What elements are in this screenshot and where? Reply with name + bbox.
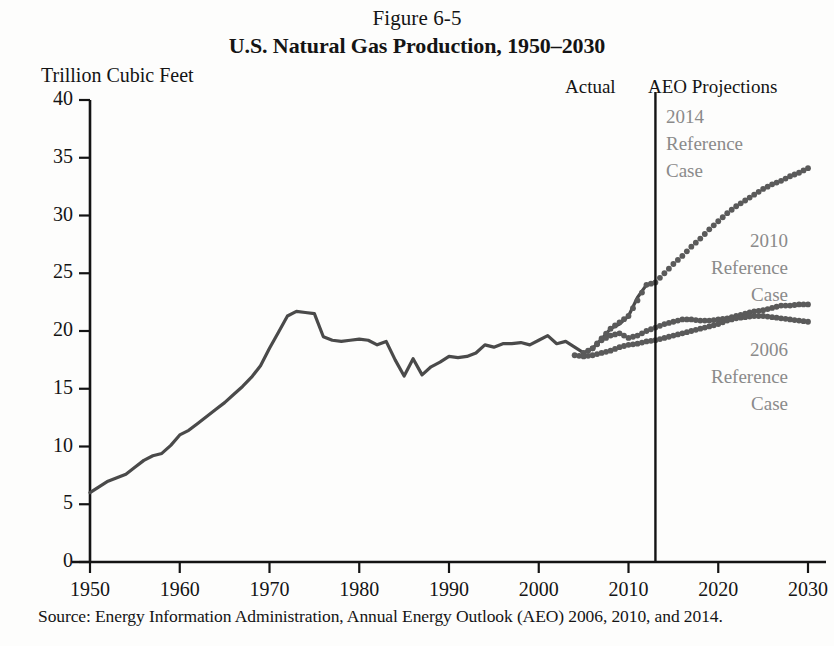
- projection-dot: [805, 319, 811, 325]
- projection-dot: [594, 341, 600, 347]
- projection-dot: [693, 240, 699, 246]
- projection-dot: [720, 214, 726, 220]
- projection-dot: [805, 165, 811, 171]
- projection-dot: [657, 275, 663, 281]
- y-axis-tick-label: 20: [33, 318, 73, 341]
- projection-dot: [706, 226, 712, 232]
- projection-dot: [711, 222, 717, 228]
- x-axis-tick-label: 1950: [55, 578, 125, 601]
- projection-dot: [684, 248, 690, 254]
- x-axis-tick-label: 2030: [773, 578, 834, 601]
- y-axis-tick-label: 15: [33, 376, 73, 399]
- projection-dot: [639, 290, 645, 296]
- y-axis-tick-label: 35: [33, 145, 73, 168]
- projection-dot: [805, 302, 811, 308]
- projection-dot: [590, 345, 596, 351]
- actual-line: [90, 282, 655, 492]
- chart-series: [90, 165, 811, 492]
- y-axis-tick-label: 0: [33, 549, 73, 572]
- source-note: Source: Energy Information Administratio…: [38, 606, 723, 627]
- projection-dot: [702, 231, 708, 237]
- projection-dot: [630, 305, 636, 311]
- projection-dot: [635, 297, 641, 303]
- x-axis-tick-label: 1990: [414, 578, 484, 601]
- series-0: [90, 282, 655, 492]
- projection-dot: [675, 257, 681, 263]
- projection-dot: [697, 236, 703, 242]
- x-axis-tick-label: 2020: [683, 578, 753, 601]
- projection-dot: [626, 313, 632, 319]
- x-axis-tick-label: 1980: [324, 578, 394, 601]
- y-axis-tick-label: 30: [33, 203, 73, 226]
- chart-canvas: [0, 0, 834, 646]
- projection-dot: [688, 244, 694, 250]
- x-axis-tick-label: 2000: [504, 578, 574, 601]
- projection-dot: [679, 253, 685, 259]
- x-axis-tick-label: 2010: [594, 578, 664, 601]
- projection-dot: [715, 218, 721, 224]
- projection-dot: [666, 266, 672, 272]
- x-axis-tick-label: 1970: [235, 578, 305, 601]
- projection-dot: [670, 261, 676, 267]
- y-axis-tick-label: 25: [33, 260, 73, 283]
- y-axis-tick-label: 5: [33, 491, 73, 514]
- chart-axes: [72, 100, 826, 573]
- x-axis-tick-label: 1960: [145, 578, 215, 601]
- figure-container: Figure 6-5 U.S. Natural Gas Production, …: [0, 0, 834, 646]
- y-axis-tick-label: 40: [33, 87, 73, 110]
- projection-dot: [662, 270, 668, 276]
- y-axis-tick-label: 10: [33, 434, 73, 457]
